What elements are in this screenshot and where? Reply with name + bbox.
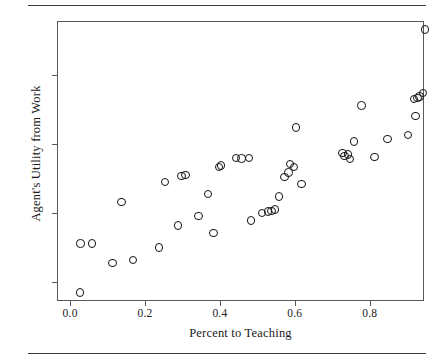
scatter-point xyxy=(413,94,421,102)
scatter-point xyxy=(174,221,182,229)
scatter-point xyxy=(404,131,412,139)
scatter-point xyxy=(76,239,84,247)
x-axis-label: Percent to Teaching xyxy=(57,326,424,341)
x-axis-tick xyxy=(70,301,71,306)
top-horizontal-rule xyxy=(28,5,426,6)
scatter-points-layer xyxy=(58,22,423,300)
x-axis-tick-label: 0.4 xyxy=(212,307,227,319)
x-axis-tick-label: 0.2 xyxy=(138,307,153,319)
x-axis-tick-label: 0.6 xyxy=(287,307,302,319)
scatter-point xyxy=(292,123,300,131)
scatter-point xyxy=(155,243,163,251)
scatter-point xyxy=(370,153,378,161)
scatter-point xyxy=(245,154,253,162)
scatter-point xyxy=(290,163,298,171)
bottom-horizontal-rule xyxy=(28,353,426,354)
scatter-point xyxy=(88,239,96,247)
scatter-point xyxy=(383,135,391,143)
plot-area xyxy=(57,21,424,301)
scatter-point xyxy=(161,178,169,186)
x-axis-tick-label: 0.8 xyxy=(362,307,377,319)
scatter-point xyxy=(108,259,116,267)
scatter-point xyxy=(204,190,212,198)
scatter-point xyxy=(209,229,217,237)
scatter-point xyxy=(411,112,419,120)
scatter-point xyxy=(297,180,305,188)
y-axis-label: Agent's Utility from Work xyxy=(29,34,44,274)
x-axis-tick xyxy=(295,301,296,306)
scatter-point xyxy=(271,205,279,213)
x-axis-tick xyxy=(145,301,146,306)
scatter-point xyxy=(357,101,365,109)
x-axis-tick xyxy=(370,301,371,306)
scatter-point xyxy=(247,216,255,224)
scatter-point xyxy=(181,171,189,179)
scatter-point xyxy=(264,207,272,215)
scatter-point xyxy=(194,212,202,220)
scatter-point xyxy=(421,25,429,33)
scatter-point xyxy=(76,288,84,296)
scatter-point xyxy=(217,161,225,169)
scatter-point xyxy=(117,198,125,206)
scatter-point xyxy=(350,137,358,145)
x-axis-tick xyxy=(220,301,221,306)
scatter-point xyxy=(129,256,137,264)
figure-container: 1234 0.00.20.40.60.8 Percent to Teaching… xyxy=(0,0,439,364)
scatter-point xyxy=(275,192,283,200)
scatter-point xyxy=(340,152,348,160)
x-axis-tick-label: 0.0 xyxy=(63,307,78,319)
